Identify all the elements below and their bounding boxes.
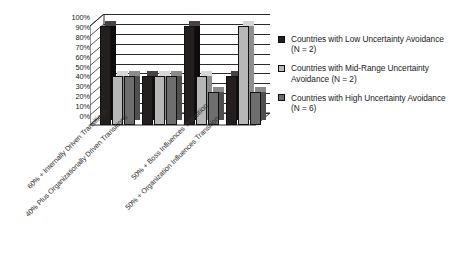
legend-swatch-icon [278,94,285,101]
x-axis-label: 40% Plus Organizationally Driven Transit… [24,113,130,219]
legend-item-mid-range-uncertainty: Countries with Mid-Range Uncertainty Avo… [278,63,446,83]
x-axis-label: 50% + Organization Influences Transition [124,115,221,212]
bar-chart: 100% 90% 80% 70% 60% 50% 40% 30% 20% 10%… [0,0,449,280]
legend: Countries with Low Uncertainty Avoidance… [278,34,446,122]
legend-label: Countries with Mid-Range Uncertainty Avo… [291,63,446,83]
legend-item-high-uncertainty: Countries with High Uncertainty Avoidanc… [278,93,446,113]
legend-label: Countries with Low Uncertainty Avoidance… [291,34,446,54]
legend-swatch-icon [278,65,285,72]
legend-item-low-uncertainty: Countries with Low Uncertainty Avoidance… [278,34,446,54]
legend-label: Countries with High Uncertainty Avoidanc… [291,93,446,113]
legend-swatch-icon [278,36,285,43]
